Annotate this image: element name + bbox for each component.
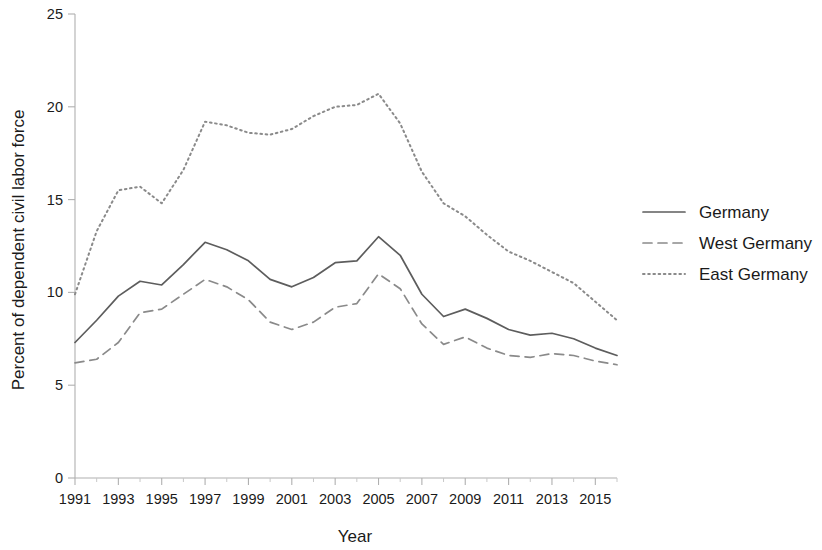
series-line-west-germany: [75, 274, 617, 365]
x-tick-label: 1997: [189, 491, 221, 507]
y-axis-ticks: [68, 14, 75, 478]
x-tick-label: 1991: [59, 491, 91, 507]
x-tick-label: 2001: [276, 491, 308, 507]
x-axis-ticks: [75, 478, 617, 485]
y-tick-label: 25: [47, 6, 63, 22]
chart-figure: 0510152025 19911993199519971999200120032…: [0, 0, 822, 550]
y-axis-title: Percent of dependent civil labor force: [9, 110, 28, 391]
x-tick-label: 1999: [232, 491, 264, 507]
x-tick-label: 2013: [536, 491, 568, 507]
x-tick-label: 2015: [579, 491, 611, 507]
y-tick-label: 5: [55, 377, 63, 393]
y-axis-tick-labels: 0510152025: [47, 6, 63, 486]
legend-label-germany: Germany: [699, 203, 769, 222]
x-tick-label: 1995: [146, 491, 178, 507]
y-tick-label: 15: [47, 192, 63, 208]
x-tick-label: 1993: [102, 491, 134, 507]
x-axis-title: Year: [338, 527, 373, 546]
x-tick-label: 2009: [449, 491, 481, 507]
x-tick-label: 2011: [493, 491, 524, 507]
y-tick-label: 0: [55, 470, 63, 486]
legend-label-west-germany: West Germany: [699, 234, 813, 253]
y-tick-label: 20: [47, 99, 63, 115]
series-lines: [75, 94, 617, 365]
y-tick-label: 10: [47, 284, 63, 300]
legend-label-east-germany: East Germany: [699, 265, 808, 284]
series-line-east-germany: [75, 94, 617, 320]
x-tick-label: 2003: [319, 491, 351, 507]
x-tick-label: 2007: [406, 491, 438, 507]
x-tick-label: 2005: [362, 491, 394, 507]
series-line-germany: [75, 237, 617, 356]
line-chart-svg: 0510152025 19911993199519971999200120032…: [0, 0, 822, 550]
x-axis-tick-labels: 1991199319951997199920012003200520072009…: [59, 491, 612, 507]
chart-legend: GermanyWest GermanyEast Germany: [643, 203, 813, 284]
